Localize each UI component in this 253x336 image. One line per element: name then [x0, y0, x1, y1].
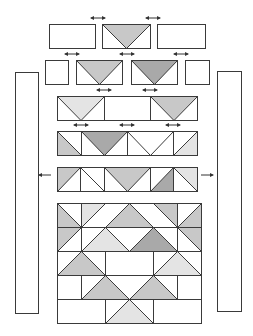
- row-2: [46, 52, 210, 85]
- arrow-head-left: [90, 16, 94, 20]
- block-triangle: [106, 204, 154, 228]
- flying-goose-triangle: [132, 61, 178, 85]
- flying-goose-triangle: [128, 132, 174, 156]
- arrow-head-left: [119, 52, 123, 56]
- center-block: [58, 204, 202, 324]
- flying-goose-triangle: [58, 97, 105, 121]
- arrow-right-icon: [201, 173, 214, 177]
- arrow-head-left: [64, 52, 68, 56]
- quilt-assembly-diagram: [0, 0, 253, 336]
- row-4: [58, 123, 198, 156]
- flying-goose-triangle: [103, 25, 151, 49]
- double-arrow-icon: [119, 52, 135, 56]
- flying-goose-triangle: [77, 61, 123, 85]
- block-triangle: [130, 276, 178, 300]
- row-3: [58, 88, 198, 121]
- plain-rectangle: [50, 25, 96, 49]
- block-triangle: [82, 228, 130, 252]
- plain-rectangle: [105, 97, 151, 121]
- flying-goose-triangle: [82, 132, 128, 156]
- right-border-strip: [218, 72, 242, 312]
- arrow-head-right: [185, 52, 189, 56]
- double-arrow-icon: [142, 88, 158, 92]
- quilt-diagram-canvas: [0, 0, 253, 336]
- double-arrow-icon: [119, 123, 135, 127]
- arrow-head-left: [73, 123, 77, 127]
- hst-seam: [81, 168, 105, 192]
- block-triangle: [106, 300, 154, 324]
- double-arrow-icon: [96, 88, 112, 92]
- block-triangle: [82, 276, 130, 300]
- row-1: [50, 16, 206, 49]
- block-triangle: [58, 252, 106, 276]
- arrow-left-icon: [38, 173, 51, 177]
- left-border-strip: [16, 73, 39, 314]
- double-arrow-icon: [173, 52, 189, 56]
- double-arrow-icon: [90, 16, 106, 20]
- plain-rectangle: [186, 61, 210, 85]
- row-5: [38, 168, 214, 192]
- double-arrow-icon: [73, 123, 89, 127]
- block-triangle: [154, 252, 202, 276]
- arrow-head-left: [165, 123, 169, 127]
- flying-goose-triangle: [105, 168, 151, 192]
- arrow-head-right: [157, 16, 161, 20]
- arrow-head: [210, 173, 214, 177]
- double-arrow-icon: [145, 16, 161, 20]
- block-triangle: [130, 228, 178, 252]
- arrow-head-left: [173, 52, 177, 56]
- arrow-head-right: [177, 123, 181, 127]
- arrow-head-right: [108, 88, 112, 92]
- double-arrow-icon: [165, 123, 181, 127]
- arrow-head-right: [131, 123, 135, 127]
- arrow-head-left: [145, 16, 149, 20]
- plain-rectangle: [46, 61, 69, 85]
- arrow-head-left: [119, 123, 123, 127]
- plain-rectangle: [158, 25, 206, 49]
- arrow-head-left: [142, 88, 146, 92]
- arrow-head-right: [85, 123, 89, 127]
- arrow-head-right: [76, 52, 80, 56]
- flying-goose-triangle: [151, 97, 198, 121]
- arrow-head-right: [102, 16, 106, 20]
- arrow-head-right: [154, 88, 158, 92]
- arrow-head-right: [131, 52, 135, 56]
- arrow-head-left: [96, 88, 100, 92]
- double-arrow-icon: [64, 52, 80, 56]
